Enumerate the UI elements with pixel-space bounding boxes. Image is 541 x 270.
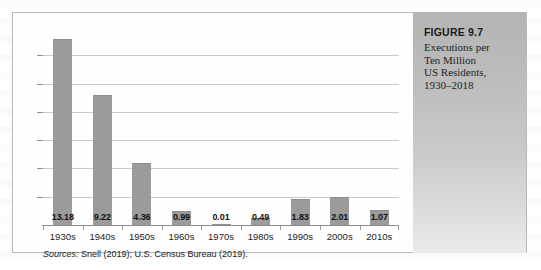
- sources-text: Snell (2019); U.S. Census Bureau (2019).: [81, 249, 248, 259]
- x-axis-label: 1980s: [241, 231, 281, 242]
- x-tick-mark: [320, 226, 321, 230]
- x-axis-label: 1990s: [280, 231, 320, 242]
- bar-slot: 9.22: [83, 27, 123, 225]
- x-tick-mark: [83, 226, 84, 230]
- chart-area: 13.189.224.360.990.010.491.832.011.07 19…: [13, 13, 415, 253]
- bar-slot: 1.83: [280, 27, 320, 225]
- x-axis-label: 1930s: [43, 231, 83, 242]
- x-tick-mark: [241, 226, 242, 230]
- figure-title-line: Ten Million: [424, 54, 518, 67]
- bar: [93, 95, 112, 225]
- sources-label: Sources:: [43, 249, 79, 259]
- bar-series: 13.189.224.360.990.010.491.832.011.07: [43, 27, 399, 225]
- bar-value-label: 2.01: [320, 212, 360, 222]
- bar: [53, 39, 72, 225]
- figure-title-line: Executions per: [424, 41, 518, 54]
- x-tick-mark: [201, 226, 202, 230]
- x-axis-label: 1950s: [122, 231, 162, 242]
- bar-slot: 1.07: [360, 27, 400, 225]
- figure-caption-panel: FIGURE 9.7 Executions perTen MillionUS R…: [413, 13, 526, 253]
- bar-slot: 4.36: [122, 27, 162, 225]
- bar-slot: 0.01: [201, 27, 241, 225]
- bar-value-label: 1.83: [280, 212, 320, 222]
- x-axis-label: 1970s: [201, 231, 241, 242]
- figure-title-line: 1930–2018: [424, 79, 518, 92]
- bar-value-label: 13.18: [43, 212, 83, 222]
- figure-number: FIGURE 9.7: [424, 26, 518, 38]
- figure-container: 13.189.224.360.990.010.491.832.011.07 19…: [12, 12, 527, 253]
- x-tick-mark: [398, 226, 399, 230]
- x-tick-mark: [122, 226, 123, 230]
- bar-value-label: 0.01: [201, 212, 241, 222]
- figure-title-line: US Residents,: [424, 66, 518, 79]
- x-axis-label: 2010s: [360, 231, 400, 242]
- bar-value-label: 9.22: [83, 212, 123, 222]
- bar-slot: 0.99: [162, 27, 202, 225]
- bar-value-label: 1.07: [360, 212, 400, 222]
- x-tick-mark: [43, 226, 44, 230]
- bar-slot: 13.18: [43, 27, 83, 225]
- bar-value-label: 4.36: [122, 212, 162, 222]
- x-tick-mark: [162, 226, 163, 230]
- bar-value-label: 0.49: [241, 212, 281, 222]
- x-tick-mark: [360, 226, 361, 230]
- bar-value-label: 0.99: [162, 212, 202, 222]
- x-axis-label: 1940s: [83, 231, 123, 242]
- bar-slot: 0.49: [241, 27, 281, 225]
- x-axis-label: 1960s: [162, 231, 202, 242]
- x-axis-label: 2000s: [320, 231, 360, 242]
- sources-note: Sources: Snell (2019); U.S. Census Burea…: [43, 249, 248, 259]
- plot-area: 13.189.224.360.990.010.491.832.011.07: [43, 27, 399, 226]
- x-axis-labels: 1930s1940s1950s1960s1970s1980s1990s2000s…: [43, 231, 399, 242]
- x-tick-mark: [280, 226, 281, 230]
- figure-title: Executions perTen MillionUS Residents,19…: [424, 41, 518, 91]
- bar-slot: 2.01: [320, 27, 360, 225]
